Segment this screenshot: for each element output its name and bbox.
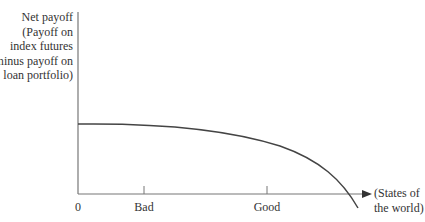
payoff-chart bbox=[0, 0, 425, 222]
x-tick-label-0: 0 bbox=[75, 200, 81, 214]
x-tick-label-bad: Bad bbox=[134, 200, 153, 214]
x-tick-label-good: Good bbox=[254, 200, 281, 214]
x-axis-label: (States of the world) bbox=[374, 186, 424, 215]
x-axis-label-line: (States of bbox=[374, 186, 424, 201]
net-payoff-curve bbox=[78, 124, 358, 208]
x-axis-label-line: the world) bbox=[374, 201, 424, 216]
x-axis-arrow-icon bbox=[362, 190, 372, 198]
